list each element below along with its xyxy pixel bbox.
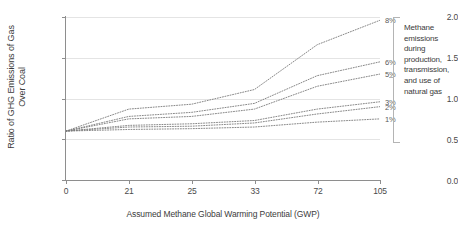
y-axis-title: Ratio of GHG Emissions of Gas Over Coal [6,22,28,152]
x-tick-label-25: 25 [187,186,196,196]
x-tick-label-33: 33 [250,186,259,196]
ghg-ratio-line-chart: Ratio of GHG Emissions of Gas Over Coal … [0,0,458,233]
y-tick-label-0-5: 0.5 [396,135,458,145]
x-tick-label-72: 72 [313,186,322,196]
series-lines [66,17,380,180]
x-tick-label-105: 105 [373,186,387,196]
y-tick-label-0-0: 0.0 [396,176,458,186]
x-tick-mark-0 [66,180,67,184]
x-tick-mark-72 [318,180,319,184]
x-tick-mark-33 [255,180,256,184]
annotation-bracket-nub [389,77,394,78]
annotation-text: Methane emissions during production, tra… [404,23,458,97]
x-tick-mark-25 [192,180,193,184]
x-tick-mark-21 [129,180,130,184]
x-axis-title: Assumed Methane Global Warming Potential… [66,209,380,219]
x-tick-label-0: 0 [64,186,69,196]
y-tick-label-2-0: 2.0 [396,12,458,22]
plot-area [66,17,380,180]
x-tick-mark-105 [380,180,381,184]
annotation-bracket [393,17,400,143]
x-tick-label-21: 21 [124,186,133,196]
x-axis-spine [65,180,381,181]
